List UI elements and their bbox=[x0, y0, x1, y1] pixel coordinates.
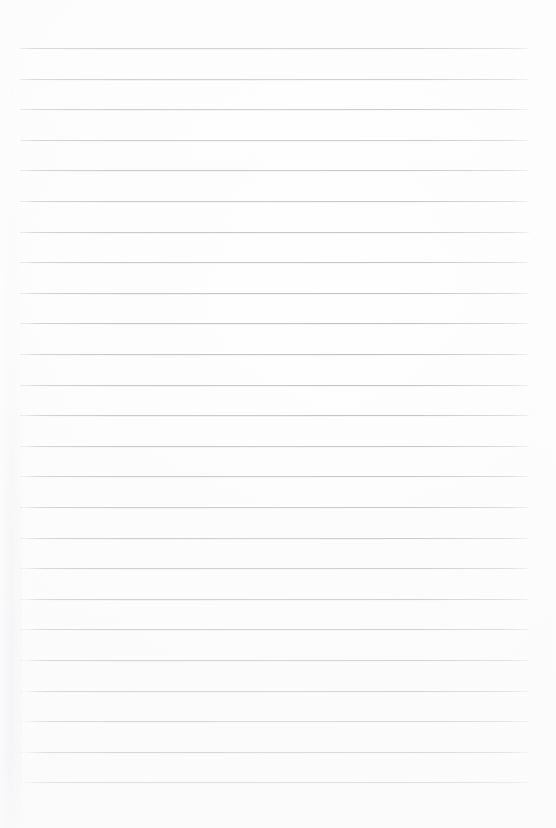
rule-line bbox=[20, 109, 529, 110]
rule-line bbox=[20, 476, 529, 477]
rule-line bbox=[20, 507, 529, 508]
rule-line bbox=[20, 599, 529, 600]
ruled-lines-group bbox=[0, 0, 556, 828]
rule-line bbox=[20, 323, 529, 324]
rule-line bbox=[20, 293, 529, 294]
rule-line bbox=[20, 385, 529, 386]
rule-line bbox=[20, 201, 529, 202]
rule-line bbox=[20, 752, 529, 753]
rule-line bbox=[20, 262, 529, 263]
rule-line bbox=[20, 354, 529, 355]
rule-line bbox=[20, 79, 529, 80]
rule-line bbox=[20, 782, 529, 783]
rule-line bbox=[20, 446, 529, 447]
rule-line bbox=[20, 538, 529, 539]
rule-line bbox=[20, 629, 529, 630]
rule-line bbox=[20, 48, 529, 49]
rule-line bbox=[20, 415, 529, 416]
rule-line bbox=[20, 691, 529, 692]
rule-line bbox=[20, 170, 529, 171]
scanned-notebook-page bbox=[0, 0, 556, 828]
rule-line bbox=[20, 232, 529, 233]
rule-line bbox=[20, 140, 529, 141]
rule-line bbox=[20, 568, 529, 569]
rule-line bbox=[20, 660, 529, 661]
rule-line bbox=[20, 721, 529, 722]
